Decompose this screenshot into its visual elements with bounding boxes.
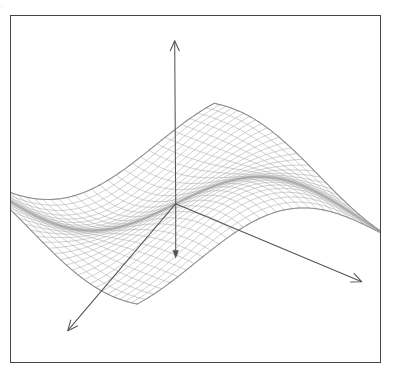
mesh-edge	[11, 158, 137, 304]
mesh-edge	[137, 208, 380, 304]
mesh-line-u	[11, 116, 250, 225]
mesh-edge	[214, 103, 380, 249]
figure-frame	[10, 15, 381, 363]
mesh-line-v	[92, 181, 293, 212]
mesh-line-v	[59, 195, 260, 226]
mesh-line-u	[11, 113, 244, 222]
mesh-line-u	[19, 153, 297, 231]
surface-plot-svg	[11, 16, 380, 362]
figure-page: .	[0, 0, 400, 378]
mesh-line-u	[66, 177, 344, 265]
mesh-line-v	[157, 144, 358, 222]
mesh-line-u	[11, 120, 256, 227]
mesh-line-v	[11, 158, 137, 304]
right-axis-line	[176, 204, 362, 282]
mesh-line-u	[11, 111, 238, 220]
mesh-line-v	[214, 103, 380, 249]
mesh-line-u	[13, 148, 291, 231]
scan-bleed-text: .	[0, 0, 400, 7]
mesh-line-u	[55, 176, 333, 254]
mesh-line-u	[11, 124, 261, 229]
mesh-line-u	[60, 177, 338, 260]
front-left-axis-line	[68, 204, 176, 331]
vertical-axis-line	[175, 41, 176, 204]
mesh-line-u	[102, 182, 380, 291]
mesh-silhouette	[11, 103, 380, 304]
wireframe-mesh	[11, 103, 380, 304]
mesh-line-u	[137, 208, 380, 304]
